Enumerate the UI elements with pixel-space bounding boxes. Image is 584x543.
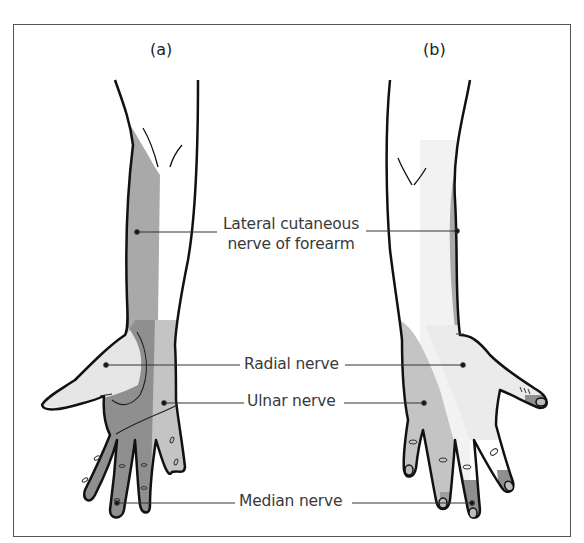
label-radial-nerve: Radial nerve bbox=[244, 355, 339, 373]
label-ulnar-nerve: Ulnar nerve bbox=[247, 392, 336, 410]
label-lateral-cutaneous-nerve: Lateral cutaneous nerve of forearm bbox=[218, 214, 364, 254]
label-median-nerve: Median nerve bbox=[239, 492, 342, 510]
label-lateral-cutaneous-line1: Lateral cutaneous bbox=[218, 214, 364, 234]
panel-b-shading bbox=[400, 140, 560, 530]
nerve-distribution-diagram bbox=[0, 0, 584, 543]
label-lateral-cutaneous-line2: nerve of forearm bbox=[218, 234, 364, 254]
panel-a-shading bbox=[40, 110, 200, 520]
